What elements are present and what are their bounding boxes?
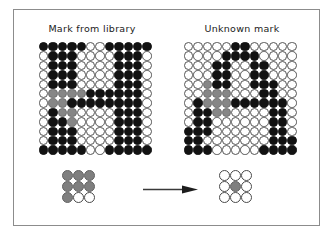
bead-6-7 — [105, 98, 114, 107]
bead-4-6 — [240, 80, 249, 89]
bead-3-11 — [142, 70, 151, 79]
bead-10-11 — [287, 136, 296, 145]
bead-8-4 — [222, 117, 231, 126]
bead-0-8 — [114, 42, 123, 51]
bead-10-0 — [184, 136, 193, 145]
bead-0-6 — [95, 42, 104, 51]
bead-10-7 — [250, 136, 259, 145]
bead-6-3 — [67, 98, 76, 107]
bead-2-10 — [278, 61, 287, 70]
bead-5-4 — [77, 89, 86, 98]
bead-10-5 — [231, 136, 240, 145]
bead-3-8 — [114, 70, 123, 79]
bead-0-3 — [67, 42, 76, 51]
right-arrow-icon — [142, 184, 200, 195]
bead-9-11 — [142, 127, 151, 136]
bead-6-1 — [48, 98, 57, 107]
bead-9-3 — [212, 127, 221, 136]
panel-title-library-mark: Mark from library — [22, 23, 162, 34]
bead-7-1 — [48, 108, 57, 117]
bead-2-9 — [269, 61, 278, 70]
bead-4-0 — [184, 80, 193, 89]
bead-3-7 — [105, 70, 114, 79]
bead-9-10 — [278, 127, 287, 136]
bead-3-8 — [259, 70, 268, 79]
bead-11-7 — [105, 145, 114, 154]
bead-3-11 — [287, 70, 296, 79]
bead-10-6 — [95, 136, 104, 145]
bead-3-2 — [58, 70, 67, 79]
bead-1-3 — [67, 51, 76, 60]
bead-9-6 — [95, 127, 104, 136]
bead-3-3 — [212, 70, 221, 79]
bead-7-7 — [105, 108, 114, 117]
bead-6-10 — [133, 98, 142, 107]
bead-9-8 — [259, 127, 268, 136]
bead-7-2 — [203, 108, 212, 117]
bead-1-1 — [48, 51, 57, 60]
bead-7-5 — [231, 108, 240, 117]
bead-1-0 — [184, 51, 193, 60]
bead-5-9 — [124, 89, 133, 98]
bead-10-11 — [142, 136, 151, 145]
bead-8-10 — [278, 117, 287, 126]
bead-5-7 — [250, 89, 259, 98]
bead-4-8 — [259, 80, 268, 89]
patch-bead-1-0 — [219, 181, 230, 192]
bead-7-5 — [86, 108, 95, 117]
bead-1-6 — [95, 51, 104, 60]
bead-6-8 — [114, 98, 123, 107]
bead-5-10 — [133, 89, 142, 98]
bead-0-5 — [86, 42, 95, 51]
bead-6-6 — [240, 98, 249, 107]
bead-11-0 — [184, 145, 193, 154]
patch-bead-2-2 — [84, 192, 95, 203]
bead-4-8 — [114, 80, 123, 89]
bead-7-2 — [58, 108, 67, 117]
bead-1-11 — [287, 51, 296, 60]
bead-3-10 — [133, 70, 142, 79]
patch-bead-0-1 — [230, 170, 241, 181]
bead-2-0 — [39, 61, 48, 70]
bead-0-9 — [124, 42, 133, 51]
bead-7-10 — [278, 108, 287, 117]
bead-3-6 — [240, 70, 249, 79]
bead-4-10 — [133, 80, 142, 89]
bead-9-9 — [269, 127, 278, 136]
bead-0-7 — [250, 42, 259, 51]
bead-6-11 — [287, 98, 296, 107]
patch-bead-1-1 — [73, 181, 84, 192]
bead-4-6 — [95, 80, 104, 89]
bead-2-9 — [124, 61, 133, 70]
bead-3-4 — [77, 70, 86, 79]
bead-grid-unknown-mark — [184, 42, 297, 155]
bead-4-7 — [250, 80, 259, 89]
bead-5-4 — [222, 89, 231, 98]
bead-5-7 — [105, 89, 114, 98]
bead-2-7 — [250, 61, 259, 70]
bead-8-8 — [114, 117, 123, 126]
patch-bead-0-0 — [219, 170, 230, 181]
bead-8-7 — [250, 117, 259, 126]
bead-5-10 — [278, 89, 287, 98]
bead-5-3 — [67, 89, 76, 98]
bead-6-3 — [212, 98, 221, 107]
bead-9-5 — [231, 127, 240, 136]
bead-4-3 — [67, 80, 76, 89]
bead-1-11 — [142, 51, 151, 60]
bead-2-8 — [259, 61, 268, 70]
bead-7-8 — [259, 108, 268, 117]
bead-9-6 — [240, 127, 249, 136]
bead-1-5 — [86, 51, 95, 60]
bead-9-4 — [222, 127, 231, 136]
bead-8-5 — [231, 117, 240, 126]
bead-grid-library-mark — [39, 42, 152, 155]
bead-11-3 — [212, 145, 221, 154]
bead-5-8 — [259, 89, 268, 98]
bead-2-10 — [133, 61, 142, 70]
panel-title-unknown-mark: Unknown mark — [172, 23, 312, 34]
bead-4-3 — [212, 80, 221, 89]
bead-5-3 — [212, 89, 221, 98]
bead-1-7 — [250, 51, 259, 60]
bead-5-0 — [39, 89, 48, 98]
